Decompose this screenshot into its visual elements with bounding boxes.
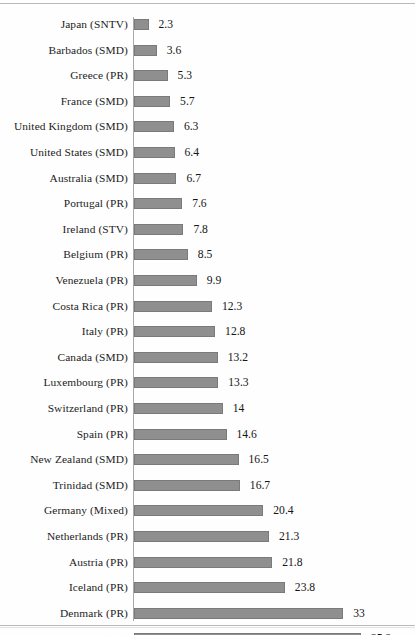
- category-label: Iceland (PR): [0, 575, 128, 601]
- category-label: Venezuela (PR): [0, 268, 128, 294]
- bar-row: Australia (SMD)6.7: [0, 166, 415, 192]
- bar: [134, 505, 263, 516]
- bar: [134, 224, 183, 235]
- bar-value-label: 5.3: [178, 63, 193, 89]
- category-label: New Zealand (SMD): [0, 447, 128, 473]
- bar-row: Spain (PR)14.6: [0, 422, 415, 448]
- bar: [134, 377, 218, 388]
- bar-value-label: 13.2: [228, 345, 248, 371]
- category-label: Switzerland (PR): [0, 396, 128, 422]
- bar-row: Costa Rica (PR)12.3: [0, 294, 415, 320]
- category-label: Italy (PR): [0, 319, 128, 345]
- bar: [134, 326, 215, 337]
- bar-value-label: 14: [233, 396, 245, 422]
- category-label: Luxembourg (PR): [0, 370, 128, 396]
- category-label: Netherlands (PR): [0, 524, 128, 550]
- category-label: Denmark (PR): [0, 601, 128, 627]
- category-label: Costa Rica (PR): [0, 294, 128, 320]
- bar: [134, 275, 197, 286]
- category-label: Australia (SMD): [0, 166, 128, 192]
- bar-row: Iceland (PR)23.8: [0, 575, 415, 601]
- category-label: United States (SMD): [0, 140, 128, 166]
- bar: [134, 531, 269, 542]
- bar-value-label: 16.5: [249, 447, 269, 473]
- bar-row: Barbados (SMD)3.6: [0, 38, 415, 64]
- figure-bottom-rule-secondary: [0, 627, 415, 628]
- category-label: Portugal (PR): [0, 191, 128, 217]
- bar-value-label: 6.7: [186, 166, 201, 192]
- bar-row: Austria (PR)21.8: [0, 550, 415, 576]
- bar-value-label: 21.3: [279, 524, 299, 550]
- bar: [134, 45, 157, 56]
- bar-value-label: 12.8: [225, 319, 245, 345]
- bar-value-label: 3.6: [167, 38, 182, 64]
- bar: [134, 147, 175, 158]
- bar-row: France (SMD)5.7: [0, 89, 415, 115]
- category-label: Trinidad (SMD): [0, 473, 128, 499]
- bar-row: Italy (PR)12.8: [0, 319, 415, 345]
- bar-row: Greece (PR)5.3: [0, 63, 415, 89]
- category-label: United Kingdom (SMD): [0, 114, 128, 140]
- plot-area: Japan (SNTV)2.3Barbados (SMD)3.6Greece (…: [0, 12, 415, 622]
- category-label: Austria (PR): [0, 550, 128, 576]
- bar-row: Denmark (PR)33: [0, 601, 415, 627]
- bar-value-label: 2.3: [159, 12, 174, 38]
- bar-value-label: 16.7: [250, 473, 270, 499]
- bar-value-label: 8.5: [198, 242, 213, 268]
- bar-row: United States (SMD)6.4: [0, 140, 415, 166]
- category-label: Spain (PR): [0, 422, 128, 448]
- figure-bottom-rule: [0, 625, 415, 626]
- category-label: Germany (Mixed): [0, 498, 128, 524]
- bar: [134, 429, 227, 440]
- bar-row: Trinidad (SMD)16.7: [0, 473, 415, 499]
- bar: [134, 403, 223, 414]
- bar-row: Belgium (PR)8.5: [0, 242, 415, 268]
- bar: [134, 121, 174, 132]
- figure-top-rule: [0, 3, 415, 4]
- bar-value-label: 13.3: [228, 370, 248, 396]
- category-label: Canada (SMD): [0, 345, 128, 371]
- bar: [134, 608, 343, 619]
- bar-row: Switzerland (PR)14: [0, 396, 415, 422]
- bar: [134, 70, 168, 81]
- bar-value-label: 23.8: [295, 575, 315, 601]
- bar: [134, 557, 272, 568]
- bar: [134, 249, 188, 260]
- bar-row: Japan (SNTV)2.3: [0, 12, 415, 38]
- chart-figure: Japan (SNTV)2.3Barbados (SMD)3.6Greece (…: [0, 0, 415, 635]
- bar-value-label: 9.9: [207, 268, 222, 294]
- bar-row: United Kingdom (SMD)6.3: [0, 114, 415, 140]
- bar-value-label: 6.3: [184, 114, 199, 140]
- bar-row: Portugal (PR)7.6: [0, 191, 415, 217]
- bar-value-label: 7.6: [192, 191, 207, 217]
- bar-value-label: 14.6: [237, 422, 257, 448]
- bar-row: Luxembourg (PR)13.3: [0, 370, 415, 396]
- bar-value-label: 12.3: [222, 294, 242, 320]
- category-label: France (SMD): [0, 89, 128, 115]
- bar: [134, 198, 182, 209]
- bar: [134, 582, 285, 593]
- bar-row: Netherlands (PR)21.3: [0, 524, 415, 550]
- bar-row: Canada (SMD)13.2: [0, 345, 415, 371]
- bar-value-label: 7.8: [193, 217, 208, 243]
- category-label: Greece (PR): [0, 63, 128, 89]
- bar-row: Ireland (STV)7.8: [0, 217, 415, 243]
- bar-value-label: 6.4: [185, 140, 200, 166]
- bar: [134, 480, 240, 491]
- bar-row: Venezuela (PR)9.9: [0, 268, 415, 294]
- category-label: Belgium (PR): [0, 242, 128, 268]
- category-label: Barbados (SMD): [0, 38, 128, 64]
- bar-value-label: 20.4: [273, 498, 293, 524]
- bar: [134, 96, 170, 107]
- bar: [134, 301, 212, 312]
- bar-value-label: 33: [353, 601, 365, 627]
- bar-row: New Zealand (SMD)16.5: [0, 447, 415, 473]
- bar: [134, 454, 239, 465]
- bar: [134, 352, 218, 363]
- category-label: Japan (SNTV): [0, 12, 128, 38]
- bar: [134, 19, 149, 30]
- bar-value-label: 21.8: [282, 550, 302, 576]
- bar-value-label: 5.7: [180, 89, 195, 115]
- bar-row: Germany (Mixed)20.4: [0, 498, 415, 524]
- category-label: Ireland (STV): [0, 217, 128, 243]
